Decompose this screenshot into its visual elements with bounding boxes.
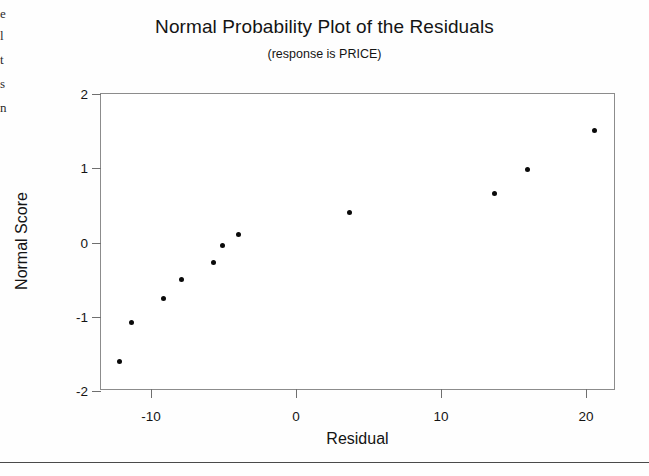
x-tick-label: 0 xyxy=(292,409,300,424)
scatter-point xyxy=(220,243,225,248)
y-tick-mark: 0 xyxy=(92,243,101,244)
scan-text-fragment: n xyxy=(0,100,7,116)
scatter-point xyxy=(592,128,597,133)
scatter-point xyxy=(117,359,122,364)
scatter-point xyxy=(236,232,241,237)
scatter-point xyxy=(492,191,497,196)
scatter-point xyxy=(179,277,184,282)
y-tick-mark: -1 xyxy=(92,317,101,318)
x-tick-mark: -10 xyxy=(151,389,152,398)
x-tick-mark: 0 xyxy=(296,389,297,398)
y-tick-label: 0 xyxy=(80,235,88,250)
page-footer-rule xyxy=(0,462,649,463)
x-tick-label: 20 xyxy=(578,409,593,424)
x-tick-mark: 20 xyxy=(586,389,587,398)
x-axis-label: Residual xyxy=(100,430,615,448)
scatter-point xyxy=(347,210,352,215)
y-tick-label: -2 xyxy=(76,384,88,399)
page-canvas: eltsn Normal Probability Plot of the Res… xyxy=(0,0,649,476)
x-tick-mark: 10 xyxy=(441,389,442,398)
chart-title: Normal Probability Plot of the Residuals xyxy=(0,16,649,38)
scatter-point xyxy=(525,167,530,172)
scan-text-fragment: s xyxy=(0,76,7,92)
scatter-point xyxy=(211,260,216,265)
y-tick-mark: 2 xyxy=(92,94,101,95)
x-tick-label: -10 xyxy=(141,409,161,424)
y-tick-label: 2 xyxy=(80,87,88,102)
plot-frame: 210-1-2 -1001020 xyxy=(100,93,615,390)
chart-subtitle: (response is PRICE) xyxy=(0,47,649,61)
scatter-point xyxy=(161,296,166,301)
y-tick-label: -1 xyxy=(76,309,88,324)
x-tick-label: 10 xyxy=(433,409,448,424)
scatter-point xyxy=(129,320,134,325)
y-tick-mark: 1 xyxy=(92,168,101,169)
y-tick-label: 1 xyxy=(80,161,88,176)
y-tick-mark: -2 xyxy=(92,391,101,392)
scatter-points-layer xyxy=(101,94,614,389)
y-axis-label: Normal Score xyxy=(13,192,31,290)
